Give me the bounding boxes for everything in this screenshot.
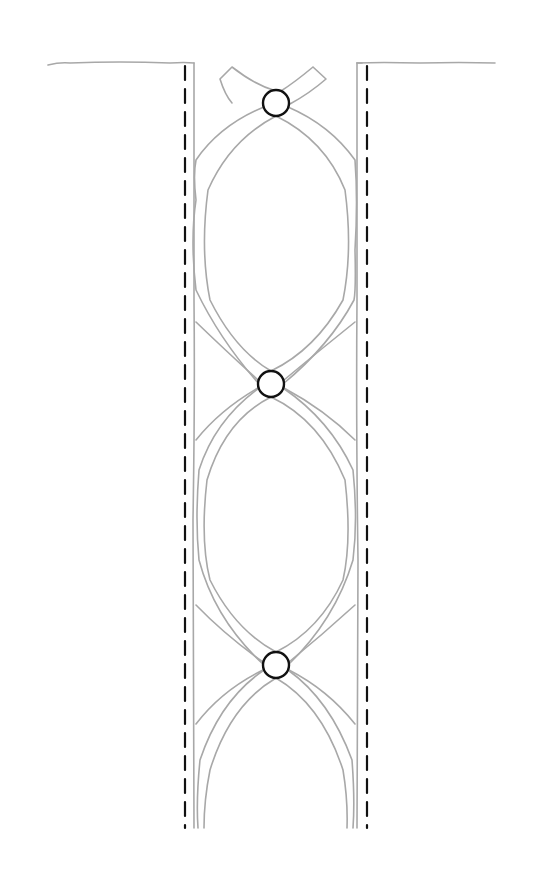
- loop3-inner-right: [276, 678, 347, 828]
- loop1-inner-right: [271, 116, 349, 371]
- mid1-upper-left: [196, 322, 258, 380]
- circle-marker-middle: [258, 371, 284, 397]
- sketch-canvas: [0, 0, 539, 892]
- top-edge-right: [357, 63, 495, 64]
- loop1-inner-left: [204, 116, 276, 371]
- top-edge-left: [48, 62, 194, 65]
- loop2-inner-right: [271, 397, 348, 652]
- circle-marker-bottom: [263, 652, 289, 678]
- loop1-outer-left: [193, 107, 264, 384]
- right-solid-edge: [357, 63, 358, 828]
- loop2-outer-left: [197, 388, 264, 665]
- circle-marker-top: [263, 90, 289, 116]
- mid1-upper-right: [284, 322, 355, 380]
- loop3-inner-left: [204, 678, 276, 828]
